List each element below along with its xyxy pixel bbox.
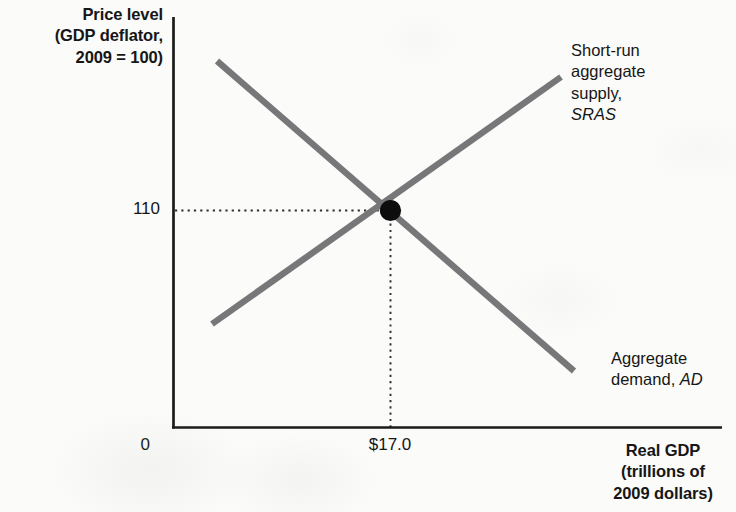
y-axis-title-line-1: Price level: [82, 5, 163, 23]
x-axis-title-line-3: 2009 dollars): [613, 484, 713, 502]
ad-label-line-1: Aggregate: [611, 349, 687, 367]
sras-label-line-2: aggregate: [571, 62, 645, 80]
ad-label-prefix: demand,: [611, 370, 680, 388]
sras-curve-label: Short-runaggregatesupply,SRAS: [571, 40, 645, 126]
y-axis-title: Price level(GDP deflator,2009 = 100): [0, 4, 163, 68]
sras-label-abbreviation: SRAS: [571, 105, 616, 123]
y-axis-title-line-2: (GDP deflator,: [55, 26, 163, 44]
x-axis-tick-label-17: $17.0: [340, 434, 440, 456]
y-axis-tick-label-110: 110: [96, 198, 160, 220]
x-axis-title: Real GDP(trillions of2009 dollars): [590, 440, 736, 504]
y-axis-title-line-3: 2009 = 100): [76, 48, 163, 66]
sras-label-line-3: supply,: [571, 84, 622, 102]
short-run-aggregate-supply-curve: [212, 77, 561, 324]
origin-label: 0: [120, 434, 150, 456]
ad-curve-label: Aggregatedemand, AD: [611, 348, 703, 391]
x-axis-title-line-2: (trillions of: [621, 462, 705, 480]
ad-label-abbreviation: AD: [680, 370, 703, 388]
figure-canvas: Price level(GDP deflator,2009 = 100) Rea…: [0, 0, 736, 512]
sras-label-line-1: Short-run: [571, 41, 640, 59]
equilibrium-point-marker: [380, 200, 401, 221]
x-axis-title-line-1: Real GDP: [626, 441, 700, 459]
